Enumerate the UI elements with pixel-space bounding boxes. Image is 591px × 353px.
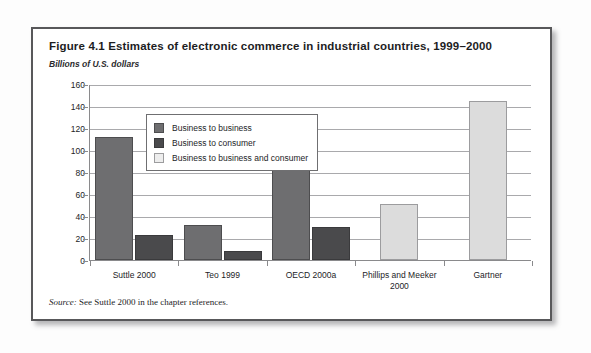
y-axis-tick-mark xyxy=(83,107,88,108)
page-background: Figure 4.1 Estimates of electronic comme… xyxy=(0,0,591,353)
y-axis-tick-mark xyxy=(83,151,88,152)
x-axis-tick-mark xyxy=(178,261,179,266)
y-axis-tick-label: 160 xyxy=(51,80,85,90)
y-axis-tick-label: 40 xyxy=(51,212,85,222)
y-axis-tick-label: 120 xyxy=(51,124,85,134)
bar-group xyxy=(267,84,355,260)
source-text: See Suttle 2000 in the chapter reference… xyxy=(77,297,228,307)
x-axis-tick-mark xyxy=(532,261,533,266)
y-axis-tick-mark xyxy=(83,85,88,86)
y-axis-tick-mark xyxy=(83,239,88,240)
bar-b2b xyxy=(95,137,133,260)
y-axis-tick-mark xyxy=(83,217,88,218)
x-axis-tick-mark xyxy=(267,261,268,266)
y-axis-tick-mark xyxy=(83,195,88,196)
bar-group xyxy=(444,84,532,260)
legend-swatch-icon xyxy=(154,138,164,148)
y-axis-tick-label: 0 xyxy=(51,256,85,266)
bar-group xyxy=(178,84,266,260)
bar-b2c xyxy=(224,251,262,260)
y-axis-tick-mark xyxy=(83,173,88,174)
y-axis-tick-mark xyxy=(83,129,88,130)
x-axis-category-label: Teo 1999 xyxy=(178,270,266,281)
figure-title: Figure 4.1 Estimates of electronic comme… xyxy=(49,40,492,52)
bar-b2c xyxy=(135,235,173,260)
x-axis-category-label: Suttle 2000 xyxy=(90,270,178,281)
x-axis-category-label: OECD 2000a xyxy=(267,270,355,281)
bar-b2b xyxy=(184,225,222,260)
figure-subtitle: Billions of U.S. dollars xyxy=(49,59,139,69)
legend-item-label: Business to business and consumer xyxy=(172,153,308,163)
legend-item-label: Business to business xyxy=(172,123,252,133)
x-axis-category-label: Gartner xyxy=(444,270,532,281)
legend-item: Business to business and consumer xyxy=(154,150,310,165)
figure-frame: Figure 4.1 Estimates of electronic comme… xyxy=(31,27,552,321)
bar-b2bc xyxy=(469,101,507,261)
legend-swatch-icon xyxy=(154,123,164,133)
legend-item: Business to business xyxy=(154,120,310,135)
source-note: Source: See Suttle 2000 in the chapter r… xyxy=(49,297,228,307)
chart-legend: Business to businessBusiness to consumer… xyxy=(146,114,318,171)
y-axis-tick-label: 20 xyxy=(51,234,85,244)
source-label: Source: xyxy=(49,297,77,307)
legend-item-label: Business to consumer xyxy=(172,138,256,148)
x-axis-tick-mark xyxy=(90,261,91,266)
bar-b2bc xyxy=(380,204,418,260)
y-axis-tick-mark xyxy=(83,261,88,262)
bar-b2b xyxy=(272,161,310,260)
legend-item: Business to consumer xyxy=(154,135,310,150)
chart-plot-area: Suttle 2000Teo 1999OECD 2000aPhillips an… xyxy=(49,77,539,272)
x-axis-tick-mark xyxy=(444,261,445,266)
y-axis-tick-label: 60 xyxy=(51,190,85,200)
x-axis-tick-mark xyxy=(355,261,356,266)
y-axis-tick-label: 100 xyxy=(51,146,85,156)
y-axis-tick-label: 140 xyxy=(51,102,85,112)
x-axis-category-label: Phillips and Meeker 2000 xyxy=(355,270,443,292)
bar-group xyxy=(355,84,443,260)
y-axis-tick-label: 80 xyxy=(51,168,85,178)
bar-b2c xyxy=(312,227,350,260)
chart-axes: Suttle 2000Teo 1999OECD 2000aPhillips an… xyxy=(89,85,531,261)
bar-group xyxy=(90,84,178,260)
legend-swatch-icon xyxy=(154,153,164,163)
